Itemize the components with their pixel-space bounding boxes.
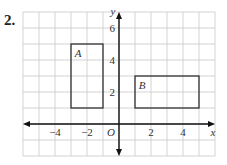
y-tick-label: 4 — [110, 54, 116, 66]
x-tick-label: 2 — [148, 126, 154, 138]
y-axis-label: y — [110, 5, 116, 17]
y-tick-label: 6 — [110, 22, 116, 34]
y-tick-label: 2 — [110, 86, 116, 98]
x-tick-label: −2 — [81, 126, 93, 138]
coordinate-grid: −4−224246OxyAB — [0, 0, 227, 165]
x-tick-label: −4 — [49, 126, 61, 138]
origin-label: O — [107, 126, 115, 138]
shape-label-a: A — [74, 47, 82, 59]
x-tick-label: 4 — [180, 126, 186, 138]
y-arrow-down-icon — [116, 149, 122, 156]
x-axis-label: x — [210, 126, 216, 138]
shape-label-b: B — [139, 79, 146, 91]
x-arrow-left-icon — [23, 121, 30, 127]
y-arrow-up-icon — [116, 12, 122, 19]
